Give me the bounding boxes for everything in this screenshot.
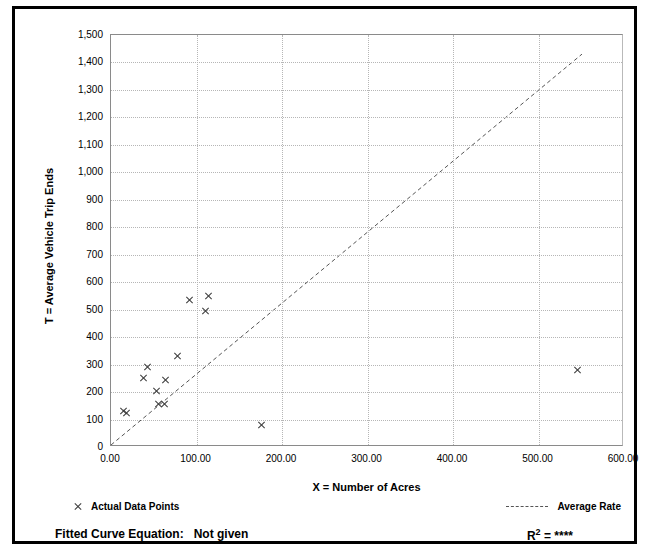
y-axis-tick-labels: 01002003004005006007008009001,0001,1001,… bbox=[15, 34, 103, 446]
y-axis-minor-tick bbox=[110, 49, 111, 50]
y-axis-minor-tick bbox=[110, 433, 111, 434]
x-axis-minor-tick bbox=[239, 445, 240, 446]
y-axis-tick-label: 1,100 bbox=[15, 138, 103, 149]
r-squared-symbol: R bbox=[527, 529, 536, 543]
x-axis-tick-labels: 0.00100.00200.00300.00400.00500.00600.00 bbox=[110, 453, 623, 467]
r-squared-stars: **** bbox=[554, 529, 573, 543]
legend-entry-average-rate: Average Rate bbox=[506, 501, 621, 512]
y-axis-tick-label: 700 bbox=[15, 248, 103, 259]
y-axis-minor-tick bbox=[110, 76, 111, 77]
x-axis-minor-tick bbox=[154, 445, 155, 446]
y-axis-tick-label: 400 bbox=[15, 331, 103, 342]
x-axis-tick-label: 400.00 bbox=[437, 453, 468, 464]
chart-page: T = Average Vehicle Trip Ends 0100200300… bbox=[0, 0, 647, 550]
x-axis-tick-label: 100.00 bbox=[180, 453, 211, 464]
gridline-vertical bbox=[368, 35, 369, 445]
y-axis-tick bbox=[110, 420, 111, 421]
y-axis-tick bbox=[110, 200, 111, 201]
y-axis-tick bbox=[110, 172, 111, 173]
y-axis-tick bbox=[110, 117, 111, 118]
gridline-horizontal bbox=[111, 172, 622, 173]
chart-frame-border: T = Average Vehicle Trip Ends 0100200300… bbox=[12, 6, 637, 544]
plot-area bbox=[110, 34, 623, 446]
x-marker-icon bbox=[73, 502, 82, 511]
gridline-horizontal bbox=[111, 310, 622, 311]
y-axis-minor-tick bbox=[110, 323, 111, 324]
legend-label-average-rate: Average Rate bbox=[557, 501, 621, 512]
y-axis-tick-label: 300 bbox=[15, 358, 103, 369]
x-axis-title: X = Number of Acres bbox=[110, 481, 623, 493]
gridline-horizontal bbox=[111, 392, 622, 393]
y-axis-minor-tick bbox=[110, 214, 111, 215]
y-axis-tick-label: 800 bbox=[15, 221, 103, 232]
gridline-horizontal bbox=[111, 365, 622, 366]
y-axis-minor-tick bbox=[110, 131, 111, 132]
x-axis-minor-tick bbox=[496, 445, 497, 446]
x-axis-tick bbox=[197, 445, 198, 446]
y-axis-minor-tick bbox=[110, 241, 111, 242]
y-axis-minor-tick bbox=[110, 268, 111, 269]
x-axis-minor-tick bbox=[581, 445, 582, 446]
gridline-horizontal bbox=[111, 145, 622, 146]
y-axis-tick bbox=[110, 255, 111, 256]
y-axis-tick bbox=[110, 282, 111, 283]
gridline-vertical bbox=[282, 35, 283, 445]
x-axis-tick bbox=[111, 445, 112, 446]
gridline-vertical bbox=[539, 35, 540, 445]
y-axis-tick-label: 200 bbox=[15, 386, 103, 397]
y-axis-tick bbox=[110, 310, 111, 311]
y-axis-tick bbox=[110, 392, 111, 393]
fitted-curve-equation: Fitted Curve Equation: Not given bbox=[55, 527, 248, 541]
y-axis-minor-tick bbox=[110, 104, 111, 105]
y-axis-tick-label: 900 bbox=[15, 193, 103, 204]
y-axis-tick-label: 0 bbox=[15, 441, 103, 452]
dashed-line-icon bbox=[506, 506, 548, 507]
gridline-horizontal bbox=[111, 420, 622, 421]
y-axis-minor-tick bbox=[110, 186, 111, 187]
gridline-horizontal bbox=[111, 255, 622, 256]
x-axis-tick-label: 600.00 bbox=[608, 453, 639, 464]
r-squared-equals: = bbox=[541, 529, 555, 543]
y-axis-tick-label: 100 bbox=[15, 413, 103, 424]
gridline-horizontal bbox=[111, 337, 622, 338]
x-axis-minor-tick bbox=[410, 445, 411, 446]
gridline-horizontal bbox=[111, 282, 622, 283]
fitted-curve-label: Fitted Curve Equation: bbox=[55, 527, 184, 541]
y-axis-tick-label: 1,300 bbox=[15, 83, 103, 94]
legend-label-actual-data-points: Actual Data Points bbox=[91, 501, 179, 512]
y-axis-minor-tick bbox=[110, 351, 111, 352]
x-axis-tick bbox=[453, 445, 454, 446]
average-rate-trendline bbox=[111, 35, 622, 445]
y-axis-tick-label: 1,200 bbox=[15, 111, 103, 122]
legend-entry-actual-data-points: Actual Data Points bbox=[73, 501, 179, 512]
chart-legend: Actual Data Points Average Rate bbox=[43, 501, 633, 521]
x-axis-tick bbox=[368, 445, 369, 446]
x-axis-tick bbox=[539, 445, 540, 446]
x-axis-tick bbox=[282, 445, 283, 446]
gridline-horizontal bbox=[111, 200, 622, 201]
x-axis-tick-label: 300.00 bbox=[351, 453, 382, 464]
y-axis-tick-label: 1,400 bbox=[15, 56, 103, 67]
y-axis-minor-tick bbox=[110, 296, 111, 297]
fitted-curve-value: Not given bbox=[194, 527, 249, 541]
y-axis-tick bbox=[110, 90, 111, 91]
gridline-vertical bbox=[197, 35, 198, 445]
y-axis-tick-label: 1,500 bbox=[15, 29, 103, 40]
footer-equation-row: Fitted Curve Equation: Not given R2 = **… bbox=[43, 527, 633, 549]
y-axis-tick-label: 600 bbox=[15, 276, 103, 287]
y-axis-tick bbox=[110, 35, 111, 36]
y-axis-tick bbox=[110, 62, 111, 63]
gridline-vertical bbox=[453, 35, 454, 445]
r-squared-value: R2 = **** bbox=[527, 527, 573, 543]
y-axis-tick bbox=[110, 145, 111, 146]
x-axis-minor-tick bbox=[325, 445, 326, 446]
y-axis-minor-tick bbox=[110, 378, 111, 379]
gridline-horizontal bbox=[111, 90, 622, 91]
gridline-horizontal bbox=[111, 62, 622, 63]
gridline-horizontal bbox=[111, 117, 622, 118]
x-axis-tick-label: 0.00 bbox=[100, 453, 119, 464]
y-axis-tick bbox=[110, 365, 111, 366]
y-axis-tick bbox=[110, 227, 111, 228]
y-axis-minor-tick bbox=[110, 406, 111, 407]
y-axis-minor-tick bbox=[110, 159, 111, 160]
